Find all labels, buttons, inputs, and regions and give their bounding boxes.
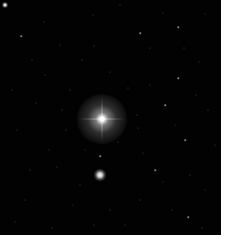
faint-star	[60, 45, 61, 46]
faint-star	[215, 145, 216, 146]
faint-star	[93, 15, 94, 16]
faint-star	[44, 22, 45, 23]
faint-star	[82, 60, 83, 61]
faint-star	[70, 90, 71, 91]
faint-star	[138, 128, 139, 129]
faint-star	[94, 225, 95, 226]
faint-star	[49, 150, 50, 151]
faint-star	[150, 85, 151, 86]
faint-star	[30, 170, 31, 171]
faint-star	[118, 142, 119, 143]
faint-star	[110, 72, 111, 73]
faint-star	[177, 26, 179, 28]
faint-star	[45, 75, 46, 76]
star-field-image	[0, 0, 221, 235]
faint-star	[36, 103, 37, 104]
faint-star	[66, 130, 67, 131]
faint-star	[205, 190, 206, 191]
faint-star	[15, 222, 16, 223]
corner-star	[2, 2, 8, 8]
faint-star	[57, 167, 58, 168]
faint-star	[163, 13, 164, 14]
faint-star	[32, 60, 33, 61]
faint-star	[80, 185, 81, 186]
faint-star	[184, 48, 185, 49]
faint-star	[73, 205, 74, 206]
faint-star	[164, 104, 166, 106]
faint-star	[20, 35, 22, 37]
faint-star	[208, 110, 209, 111]
faint-star	[154, 169, 156, 171]
faint-star	[110, 210, 111, 211]
faint-star	[187, 216, 189, 218]
faint-star	[85, 150, 86, 151]
faint-star	[190, 175, 191, 176]
faint-star	[120, 5, 121, 6]
faint-star	[205, 14, 206, 15]
faint-star	[99, 155, 101, 157]
secondary-star	[94, 169, 106, 181]
faint-star	[52, 228, 53, 229]
faint-star	[175, 125, 176, 126]
faint-star	[150, 48, 151, 49]
faint-star	[94, 46, 95, 47]
faint-star	[12, 90, 13, 91]
faint-star	[199, 62, 200, 63]
faint-star	[202, 228, 203, 229]
faint-star	[17, 130, 18, 131]
faint-star	[177, 77, 179, 79]
faint-star	[140, 200, 141, 201]
faint-star	[128, 88, 129, 89]
faint-star	[125, 225, 126, 226]
faint-star	[184, 139, 186, 141]
faint-star	[143, 153, 144, 154]
faint-star	[62, 110, 63, 111]
primary-star-core	[100, 117, 105, 122]
faint-star	[172, 210, 173, 211]
faint-star	[25, 200, 26, 201]
faint-star	[163, 182, 164, 183]
faint-star	[139, 32, 141, 34]
faint-star	[137, 115, 138, 116]
faint-star	[196, 95, 197, 96]
